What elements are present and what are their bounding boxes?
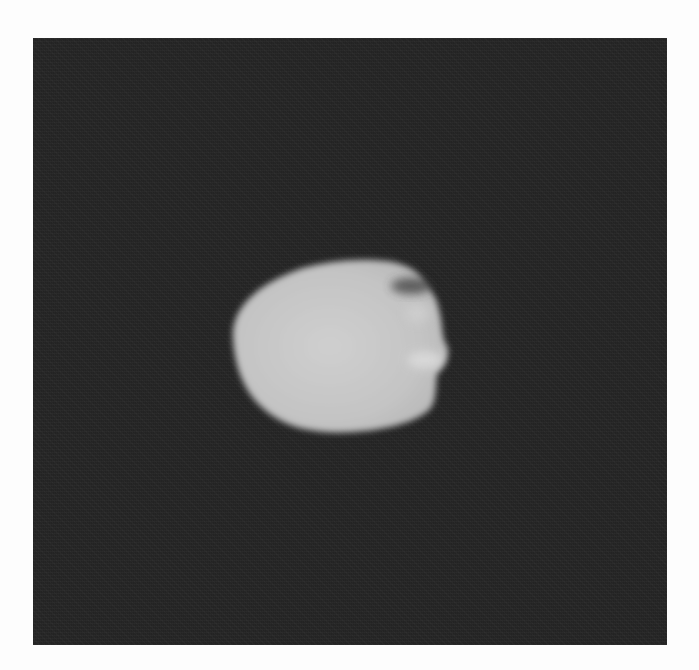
moon-body <box>33 38 667 645</box>
image-panel <box>33 38 667 645</box>
